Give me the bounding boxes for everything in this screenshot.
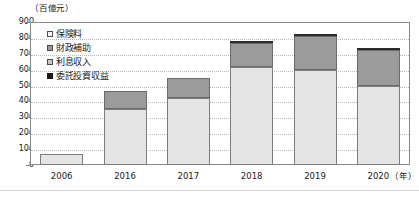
bar-segment-zaisei-2018 (230, 43, 273, 67)
legend-item-zaisei-hojo: 財政補助 (47, 41, 108, 55)
x-axis-label-2016: 2016 (93, 172, 156, 181)
legend-swatch-icon-itaku-toshi-shueki (47, 73, 53, 79)
bottom-divider (0, 190, 419, 191)
y-axis-tick-mark (26, 165, 30, 166)
bar-segment-zaisei-2016 (104, 91, 147, 108)
bar-2017 (167, 78, 210, 165)
bar-2018 (230, 42, 273, 165)
bar-segment-hoken-2018 (230, 67, 273, 166)
bar-segment-itaku-2019 (294, 34, 337, 36)
x-axis-labels: 200620162017201820192020 (30, 172, 410, 186)
stacked-bar-chart: （百億元） 0100200300400500600700800900 保険料 財… (0, 0, 419, 198)
legend-swatch-icon-risoku-shunyu (47, 59, 53, 65)
x-axis-label-2019: 2019 (283, 172, 346, 181)
legend-label-zaisei-hojo: 財政補助 (56, 44, 91, 53)
legend-swatch-icon-hokenryo (47, 31, 53, 37)
y-axis-unit-caption: （百億元） (30, 1, 74, 13)
bar-segment-hoken-2020 (357, 86, 400, 165)
legend-item-risoku-shunyu: 利息収入 (47, 55, 108, 69)
x-axis-label-2018: 2018 (220, 172, 283, 181)
bar-segment-zaisei-2019 (294, 36, 337, 69)
legend-swatch-icon-zaisei-hojo (47, 45, 53, 51)
bar-2019 (294, 36, 337, 165)
bar-segment-hoken-2019 (294, 70, 337, 165)
bar-2006 (40, 154, 83, 165)
bar-segment-zaisei-2020 (357, 50, 400, 86)
legend-label-hokenryo: 保険料 (56, 30, 82, 39)
bar-2020 (357, 49, 400, 165)
x-axis-unit-label: （年） (390, 172, 417, 181)
x-axis-label-2006: 2006 (30, 172, 93, 181)
bar-segment-itaku-2018 (230, 41, 273, 43)
bar-segment-hoken-2017 (167, 98, 210, 165)
x-axis-label-2017: 2017 (157, 172, 220, 181)
bar-segment-hoken-2016 (104, 109, 147, 165)
legend-label-itaku-toshi-shueki: 委託投資収益 (56, 72, 108, 81)
legend-item-hokenryo: 保険料 (47, 27, 108, 41)
bar-segment-hoken-2006 (40, 154, 83, 165)
legend-label-risoku-shunyu: 利息収入 (56, 58, 91, 67)
legend: 保険料 財政補助 利息収入 委託投資収益 (47, 27, 108, 83)
bar-segment-itaku-2020 (357, 48, 400, 50)
bar-2016 (104, 91, 147, 165)
bar-segment-zaisei-2017 (167, 78, 210, 98)
legend-item-itaku-toshi-shueki: 委託投資収益 (47, 69, 108, 83)
